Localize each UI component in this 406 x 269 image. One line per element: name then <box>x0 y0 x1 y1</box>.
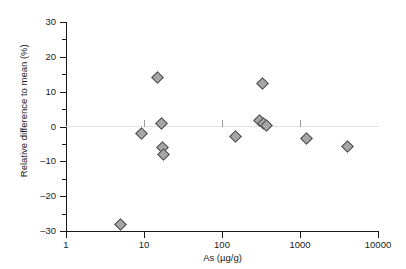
x-tick-label: 1 <box>63 240 68 250</box>
data-point-marker <box>155 117 168 130</box>
y-axis-line <box>66 22 67 232</box>
zero-line-nub <box>300 120 301 127</box>
zero-line-nub <box>144 120 145 127</box>
x-tick-major <box>378 232 379 238</box>
y-tick-minor <box>62 214 66 215</box>
y-tick-major <box>60 127 66 128</box>
scatter-chart-figure: 3020100–10–20–30 110100100010000 Relativ… <box>0 0 406 269</box>
y-tick-label: –30 <box>0 226 56 236</box>
y-tick-major <box>60 196 66 197</box>
y-tick-minor <box>62 109 66 110</box>
x-tick-major <box>300 232 301 238</box>
x-tick-label: 10 <box>139 240 150 250</box>
y-tick-minor <box>62 144 66 145</box>
y-tick-major <box>60 161 66 162</box>
y-tick-minor <box>62 179 66 180</box>
y-tick-minor <box>62 39 66 40</box>
x-tick-major <box>222 232 223 238</box>
y-tick-major <box>60 92 66 93</box>
data-point-marker <box>135 127 148 140</box>
data-point-marker <box>151 71 164 84</box>
y-axis-title: Relative difference to mean (%) <box>19 1 29 221</box>
data-point-marker <box>300 132 313 145</box>
y-tick-major <box>60 57 66 58</box>
x-axis-title: As (µg/g) <box>66 253 379 263</box>
x-tick-label: 10000 <box>365 240 391 250</box>
y-tick-major <box>60 22 66 23</box>
x-tick-major <box>66 232 67 238</box>
zero-line-nub <box>222 120 223 127</box>
y-tick-minor <box>62 74 66 75</box>
data-point-marker <box>341 140 354 153</box>
data-point-marker <box>229 130 242 143</box>
x-tick-label: 100 <box>214 240 230 250</box>
x-tick-major <box>144 232 145 238</box>
data-point-marker <box>114 218 127 231</box>
data-point-marker <box>256 77 269 90</box>
x-tick-label: 1000 <box>289 240 310 250</box>
